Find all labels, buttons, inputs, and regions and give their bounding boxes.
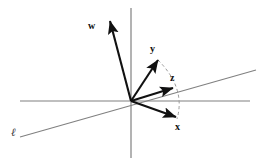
vector-diagram-figure: w y z x ℓ — [0, 0, 265, 166]
vector-label-w: w — [88, 21, 95, 31]
vector-x — [131, 101, 176, 117]
vector-label-y: y — [150, 44, 155, 54]
vector-w — [110, 21, 131, 101]
diagram-canvas — [0, 0, 265, 166]
vector-label-x: x — [175, 122, 180, 132]
vector-label-z: z — [170, 73, 174, 83]
oblique-line-label: ℓ — [11, 127, 16, 138]
